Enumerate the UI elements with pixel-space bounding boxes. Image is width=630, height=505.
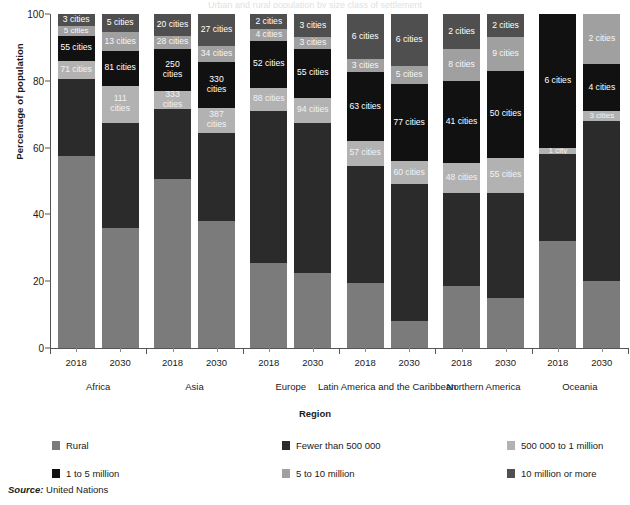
- bar-segment[interactable]: [154, 109, 191, 179]
- bar-segment[interactable]: 1 city: [539, 148, 576, 155]
- bar-segment[interactable]: [583, 281, 620, 348]
- bar-segment[interactable]: [294, 273, 331, 348]
- bar-latin-america-and-the-caribbean-2018[interactable]: 57 cities63 cities3 cities6 cities: [347, 14, 384, 348]
- bar-segment[interactable]: 3 cities: [294, 37, 331, 49]
- bar-segment[interactable]: [347, 166, 384, 283]
- bar-segment[interactable]: 88 cities: [250, 88, 287, 111]
- bar-segment[interactable]: 4 cities: [583, 64, 620, 111]
- bar-segment[interactable]: 27 cities: [198, 14, 235, 46]
- bar-segment[interactable]: 77 cities: [391, 84, 428, 161]
- bar-segment[interactable]: [487, 298, 524, 348]
- bar-segment[interactable]: 5 cities: [391, 66, 428, 84]
- bar-segment[interactable]: 5 cities: [102, 14, 139, 32]
- bar-segment[interactable]: [391, 321, 428, 348]
- bar-segment[interactable]: [443, 193, 480, 287]
- bar-segment[interactable]: 9 cities: [487, 37, 524, 70]
- bar-segment[interactable]: [294, 123, 331, 273]
- bar-segment[interactable]: [102, 228, 139, 348]
- bar-europe-2030[interactable]: 94 cities55 cities3 cities3 cities: [294, 14, 331, 348]
- bar-oceania-2030[interactable]: 3 cities4 cities2 cities: [583, 14, 620, 348]
- legend-swatch-icon: [52, 469, 60, 478]
- bar-segment[interactable]: [58, 79, 95, 156]
- bar-segment[interactable]: [583, 121, 620, 281]
- bar-segment[interactable]: 2 cities: [487, 14, 524, 37]
- bar-asia-2018[interactable]: 333 cities250 cities28 cities20 cities: [154, 14, 191, 348]
- bar-segment[interactable]: [102, 123, 139, 228]
- bar-segment[interactable]: 71 cities: [58, 61, 95, 79]
- bar-segment[interactable]: 3 cities: [347, 59, 384, 72]
- legend-item[interactable]: Fewer than 500 000: [282, 440, 381, 451]
- segment-value-label: 60 cities: [391, 168, 428, 178]
- bar-segment[interactable]: 57 cities: [347, 141, 384, 166]
- bar-segment[interactable]: 55 cities: [294, 49, 331, 97]
- bar-segment[interactable]: [443, 286, 480, 348]
- bar-segment[interactable]: 52 cities: [250, 41, 287, 88]
- bar-segment[interactable]: [539, 154, 576, 241]
- legend-item[interactable]: 500 000 to 1 million: [507, 440, 603, 451]
- bar-segment[interactable]: 2 cities: [250, 14, 287, 29]
- y-tick-label: 80: [10, 75, 44, 86]
- bar-segment[interactable]: 4 cities: [250, 29, 287, 41]
- bar-segment[interactable]: 20 cities: [154, 14, 191, 36]
- bar-segment[interactable]: [198, 133, 235, 222]
- segment-value-label: 3 cities: [583, 112, 620, 120]
- segment-value-label: 3 cities: [294, 21, 331, 31]
- legend-item[interactable]: 1 to 5 million: [52, 468, 119, 479]
- bar-segment[interactable]: 55 cities: [487, 158, 524, 193]
- bar-segment[interactable]: 50 cities: [487, 71, 524, 158]
- bar-segment[interactable]: 34 cities: [198, 46, 235, 63]
- bar-northern-america-2030[interactable]: 55 cities50 cities9 cities2 cities: [487, 14, 524, 348]
- y-tick-label: 20: [10, 276, 44, 287]
- bar-segment[interactable]: 55 cities: [58, 36, 95, 61]
- bar-segment[interactable]: 48 cities: [443, 163, 480, 193]
- legend-swatch-icon: [507, 469, 515, 478]
- bar-segment[interactable]: [347, 283, 384, 348]
- bar-segment[interactable]: [250, 111, 287, 263]
- segment-value-label: 333 cities: [154, 91, 191, 109]
- bar-segment[interactable]: 28 cities: [154, 36, 191, 49]
- bar-segment[interactable]: 63 cities: [347, 72, 384, 140]
- bar-segment[interactable]: 41 cities: [443, 81, 480, 163]
- segment-value-label: 250 cities: [154, 60, 191, 79]
- bar-asia-2030[interactable]: 387 cities330 cities34 cities27 cities: [198, 14, 235, 348]
- legend-item[interactable]: 5 to 10 million: [282, 468, 355, 479]
- bar-segment[interactable]: 111 cities: [102, 86, 139, 123]
- bar-segment[interactable]: 3 cities: [583, 111, 620, 121]
- bar-oceania-2018[interactable]: 1 city6 cities: [539, 14, 576, 348]
- bar-segment[interactable]: [391, 184, 428, 321]
- bar-africa-2018[interactable]: 71 cities55 cities5 cities3 cities: [58, 14, 95, 348]
- bar-segment[interactable]: 8 cities: [443, 49, 480, 81]
- bar-europe-2018[interactable]: 88 cities52 cities4 cities2 cities: [250, 14, 287, 348]
- bar-segment[interactable]: [198, 221, 235, 348]
- segment-value-label: 3 cities: [294, 38, 331, 48]
- bar-segment[interactable]: [487, 193, 524, 298]
- bar-africa-2030[interactable]: 111 cities81 cities13 cities5 cities: [102, 14, 139, 348]
- x-group-separator: [628, 348, 629, 354]
- bar-segment[interactable]: 250 cities: [154, 49, 191, 91]
- bar-segment[interactable]: 81 cities: [102, 51, 139, 86]
- bar-segment[interactable]: 330 cities: [198, 62, 235, 107]
- bar-northern-america-2018[interactable]: 48 cities41 cities8 cities2 cities: [443, 14, 480, 348]
- segment-value-label: 48 cities: [443, 173, 480, 183]
- bar-segment[interactable]: 5 cities: [58, 26, 95, 36]
- legend-item[interactable]: Rural: [52, 440, 89, 451]
- bar-segment[interactable]: [250, 263, 287, 348]
- bar-segment[interactable]: 6 cities: [347, 14, 384, 59]
- bar-segment[interactable]: [154, 179, 191, 348]
- bar-segment[interactable]: 387 cities: [198, 108, 235, 133]
- legend-item[interactable]: 10 million or more: [507, 468, 597, 479]
- bar-segment[interactable]: 333 cities: [154, 91, 191, 109]
- bar-segment[interactable]: [539, 241, 576, 348]
- bar-segment[interactable]: 60 cities: [391, 161, 428, 184]
- bar-segment[interactable]: 2 cities: [443, 14, 480, 49]
- bar-segment[interactable]: 94 cities: [294, 98, 331, 123]
- bar-segment[interactable]: [58, 156, 95, 348]
- bar-segment[interactable]: 3 cities: [58, 14, 95, 26]
- bar-segment[interactable]: 3 cities: [294, 14, 331, 37]
- segment-value-label: 6 cities: [347, 32, 384, 42]
- bar-segment[interactable]: 6 cities: [391, 14, 428, 66]
- bar-latin-america-and-the-caribbean-2030[interactable]: 60 cities77 cities5 cities6 cities: [391, 14, 428, 348]
- bar-segment[interactable]: 13 cities: [102, 32, 139, 50]
- bar-segment[interactable]: 6 cities: [539, 14, 576, 148]
- bar-segment[interactable]: 2 cities: [583, 14, 620, 64]
